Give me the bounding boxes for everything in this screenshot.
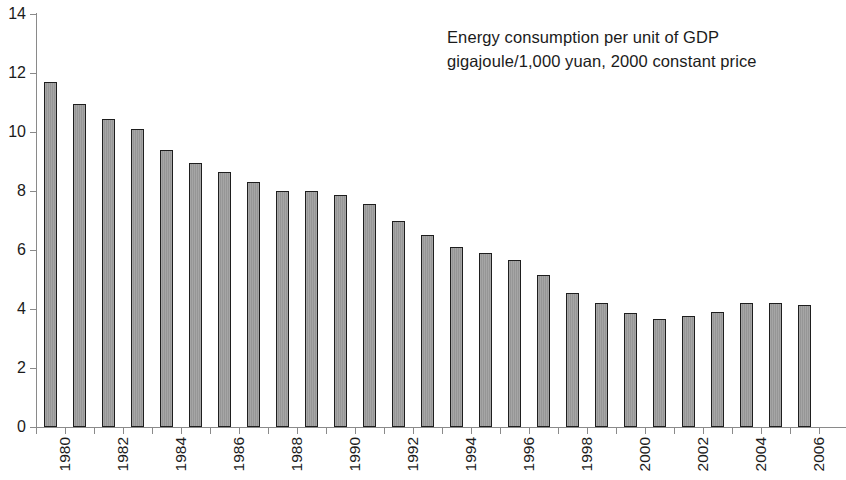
bar: [421, 235, 434, 427]
x-axis-tick: [65, 428, 66, 434]
bar: [624, 313, 637, 427]
y-axis-label: 12: [0, 65, 26, 81]
bar: [508, 260, 521, 427]
x-axis-tick: [384, 428, 385, 434]
x-axis-label: 1988: [289, 437, 305, 471]
x-axis-tick: [790, 428, 791, 434]
bar: [566, 293, 579, 427]
y-axis-tick: [30, 309, 36, 310]
y-axis-tick: [30, 14, 36, 15]
y-axis-label: 8: [0, 183, 26, 199]
x-axis-tick: [181, 428, 182, 434]
x-axis-tick: [355, 428, 356, 434]
x-axis-tick: [500, 428, 501, 434]
y-axis-tick: [30, 368, 36, 369]
y-axis-label: 4: [0, 301, 26, 317]
bar: [334, 195, 347, 427]
x-axis-label: 1984: [173, 437, 189, 471]
y-axis-line: [36, 13, 37, 428]
bar: [305, 191, 318, 427]
x-axis-tick: [732, 428, 733, 434]
x-axis-tick: [297, 428, 298, 434]
bar: [160, 150, 173, 427]
bar: [682, 316, 695, 427]
y-axis-label: 0: [0, 419, 26, 435]
x-axis-label: 2006: [811, 437, 827, 471]
x-axis-label: 2000: [637, 437, 653, 471]
x-axis-tick: [703, 428, 704, 434]
y-axis-label: 6: [0, 242, 26, 258]
x-axis-tick: [761, 428, 762, 434]
x-axis-tick: [326, 428, 327, 434]
bar: [392, 221, 405, 428]
bar: [189, 163, 202, 427]
bar: [653, 319, 666, 427]
bar: [102, 119, 115, 427]
bar: [537, 275, 550, 427]
x-axis-tick: [471, 428, 472, 434]
x-axis-label: 1982: [115, 437, 131, 471]
y-axis-label: 14: [0, 6, 26, 22]
x-axis-label: 1994: [463, 437, 479, 471]
x-axis-tick: [210, 428, 211, 434]
x-axis-tick: [442, 428, 443, 434]
x-axis-tick: [268, 428, 269, 434]
bar: [218, 172, 231, 427]
x-axis-tick: [239, 428, 240, 434]
bar: [276, 191, 289, 427]
x-axis-line: [36, 427, 846, 428]
y-axis-label: 10: [0, 124, 26, 140]
bar: [363, 204, 376, 427]
bar: [247, 182, 260, 427]
x-axis-tick: [616, 428, 617, 434]
x-axis-label: 2002: [695, 437, 711, 471]
chart-title-block: Energy consumption per unit of GDP gigaj…: [447, 26, 757, 74]
chart-subtitle: gigajoule/1,000 yuan, 2000 constant pric…: [447, 50, 757, 74]
energy-intensity-bar-chart: Energy consumption per unit of GDP gigaj…: [0, 0, 846, 480]
bar: [450, 247, 463, 427]
x-axis-tick: [152, 428, 153, 434]
y-axis-label: 2: [0, 360, 26, 376]
x-axis-tick: [558, 428, 559, 434]
x-axis-tick: [674, 428, 675, 434]
x-axis-tick: [645, 428, 646, 434]
bar: [798, 305, 811, 427]
y-axis-tick: [30, 132, 36, 133]
bar: [73, 104, 86, 427]
x-axis-label: 1996: [521, 437, 537, 471]
bar: [131, 129, 144, 427]
x-axis-label: 1990: [347, 437, 363, 471]
x-axis-tick: [36, 428, 37, 434]
x-axis-label: 1992: [405, 437, 421, 471]
x-axis-label: 1998: [579, 437, 595, 471]
y-axis-tick: [30, 191, 36, 192]
x-axis-tick: [587, 428, 588, 434]
x-axis-tick: [94, 428, 95, 434]
bar: [711, 312, 724, 427]
x-axis-label: 1986: [231, 437, 247, 471]
bar: [44, 82, 57, 427]
chart-title: Energy consumption per unit of GDP: [447, 26, 757, 50]
x-axis-tick: [123, 428, 124, 434]
bar: [479, 253, 492, 427]
bar: [595, 303, 608, 427]
bar: [740, 303, 753, 427]
bar: [769, 303, 782, 427]
x-axis-label: 1980: [57, 437, 73, 471]
x-axis-tick: [413, 428, 414, 434]
x-axis-label: 2004: [753, 437, 769, 471]
x-axis-tick: [529, 428, 530, 434]
x-axis-tick: [819, 428, 820, 434]
y-axis-tick: [30, 250, 36, 251]
y-axis-tick: [30, 73, 36, 74]
